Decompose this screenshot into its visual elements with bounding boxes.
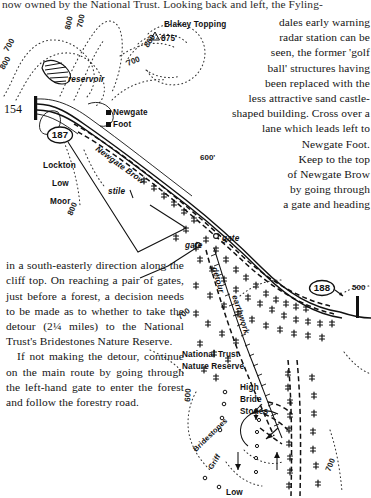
waypoint-label-187: 187	[52, 129, 68, 140]
label-lockton-moor: Moor	[50, 197, 71, 206]
grid-reference-number: 154	[4, 102, 22, 116]
guidebook-page: reservoir Blakey Topping 875' Newgate Fo…	[0, 0, 371, 498]
label-gate-left: gate	[184, 241, 203, 250]
label-blakey-topping-height: 875'	[161, 34, 177, 43]
left-column-text: in a south-easterly direction along the …	[6, 243, 184, 425]
label-nature-reserve: Nature Reserve	[182, 362, 244, 371]
reservoir-shape	[42, 60, 70, 84]
left-paragraph-1: in a south-easterly direction along the …	[6, 259, 184, 347]
contour-700-b: 700	[2, 36, 17, 53]
label-bride: Bride	[240, 395, 262, 404]
label-stile: stile	[108, 187, 125, 196]
label-low-bottom: Low	[226, 488, 243, 497]
building-newgate-foot	[106, 122, 111, 127]
label-newgate: Newgate	[113, 108, 148, 117]
right-column-text: dales early warning radar station can be…	[198, 15, 370, 213]
contour-700-a: 700	[75, 13, 87, 28]
label-newgate-foot: Foot	[113, 120, 131, 129]
top-running-text: now owned by the National Trust. Looking…	[2, 0, 371, 12]
label-detour: detour	[210, 266, 226, 294]
left-paragraph-2: If not making the detour, continue on th…	[6, 349, 184, 410]
label-reservoir: reservoir	[68, 75, 105, 84]
grid-bar	[34, 96, 37, 120]
waypoint-label-188: 188	[314, 282, 331, 293]
building-newgate	[106, 110, 111, 115]
contour-700-e: 700	[324, 456, 338, 472]
gate-marker-right	[214, 234, 219, 239]
label-griff: Griff	[206, 452, 223, 471]
label-lockton: Lockton	[43, 161, 76, 170]
label-bridestones: Bridestones	[191, 416, 229, 453]
label-high: High	[240, 383, 259, 392]
contour-600-b: 600	[183, 388, 193, 402]
label-stones: Stones	[240, 407, 268, 416]
label-gate-right: gate	[221, 234, 240, 243]
contour-700-c: 700	[125, 54, 141, 68]
contour-800-a: 800	[63, 15, 75, 30]
contour-800-b: 800	[0, 54, 13, 71]
label-national-trust: National Trust	[182, 350, 239, 359]
bridestones-detail	[203, 390, 292, 489]
label-lockton-low: Low	[52, 179, 69, 188]
contour-500-a: 500	[352, 283, 366, 292]
